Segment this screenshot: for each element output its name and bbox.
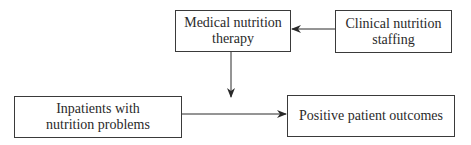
- node-label-line: Clinical nutrition: [345, 16, 441, 32]
- node-positive-patient-outcomes: Positive patient outcomes: [287, 95, 455, 137]
- node-label-line: Medical nutrition: [184, 15, 282, 31]
- node-label-line: nutrition problems: [46, 117, 150, 133]
- node-clinical-nutrition-staffing: Clinical nutritionstaffing: [335, 10, 452, 53]
- node-label-line: therapy: [184, 31, 282, 47]
- node-label-line: staffing: [345, 32, 441, 48]
- node-medical-nutrition-therapy: Medical nutritiontherapy: [175, 10, 291, 52]
- node-label-line: Inpatients with: [46, 101, 150, 117]
- node-inpatients-with-nutrition-problems: Inpatients withnutrition problems: [14, 96, 182, 138]
- node-label-line: Positive patient outcomes: [299, 108, 443, 124]
